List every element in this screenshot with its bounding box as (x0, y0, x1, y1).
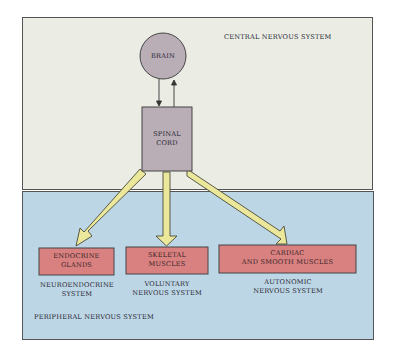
autonomic-nervous-system-label: AUTONOMIC NERVOUS SYSTEM (240, 278, 336, 296)
cord-to-brain-arrow (172, 80, 177, 107)
neuroendocrine-line2: SYSTEM (31, 290, 123, 299)
nervous-system-diagram (0, 0, 393, 355)
pns-title: PERIPHERAL NERVOUS SYSTEM (34, 313, 154, 322)
cord-to-endocrine-arrow (76, 169, 146, 246)
cardiac-label-line2: AND SMOOTH MUSCLES (219, 258, 356, 267)
brain-label: BRAIN (143, 52, 183, 61)
voluntary-nervous-system-label: VOLUNTARY NERVOUS SYSTEM (120, 280, 214, 298)
endocrine-label-line1: ENDOCRINE (39, 252, 114, 261)
autonomic-line2: NERVOUS SYSTEM (240, 287, 336, 296)
cord-to-cardiac-arrow (187, 169, 287, 244)
spinal-cord-label-line1: SPINAL (142, 130, 192, 139)
voluntary-line2: NERVOUS SYSTEM (120, 289, 214, 298)
neuroendocrine-line1: NEUROENDOCRINE (31, 281, 123, 290)
cardiac-label-line1: CARDIAC (219, 249, 356, 258)
endocrine-glands-label: ENDOCRINE GLANDS (39, 252, 114, 270)
neuroendocrine-system-label: NEUROENDOCRINE SYSTEM (31, 281, 123, 299)
skeletal-label-line1: SKELETAL (126, 251, 208, 260)
spinal-cord-label-line2: CORD (142, 139, 192, 148)
autonomic-line1: AUTONOMIC (240, 278, 336, 287)
endocrine-label-line2: GLANDS (39, 261, 114, 270)
brain-to-cord-arrow (157, 79, 162, 106)
cns-title: CENTRAL NERVOUS SYSTEM (224, 33, 332, 42)
cardiac-smooth-muscles-label: CARDIAC AND SMOOTH MUSCLES (219, 249, 356, 267)
spinal-cord-label: SPINAL CORD (142, 130, 192, 148)
skeletal-label-line2: MUSCLES (126, 260, 208, 269)
skeletal-muscles-label: SKELETAL MUSCLES (126, 251, 208, 269)
cord-to-skeletal-arrow (156, 172, 177, 246)
voluntary-line1: VOLUNTARY (120, 280, 214, 289)
